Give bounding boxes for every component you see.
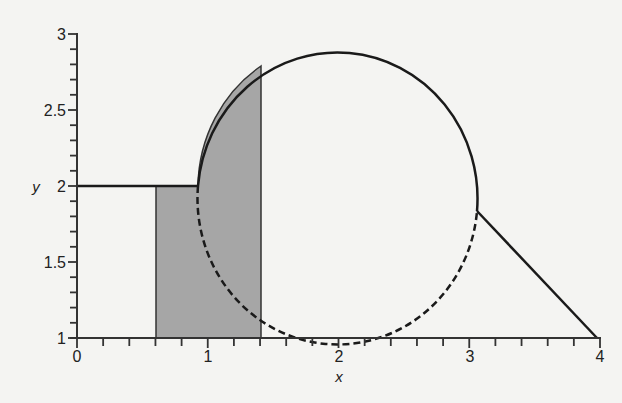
y-tick-label-2-5: 2.5 (44, 102, 66, 119)
y-tick-label-1-5: 1.5 (44, 254, 66, 271)
y-tick-label-2: 2 (57, 178, 66, 195)
x-tick-label-0: 0 (73, 348, 82, 365)
shaded-region (156, 66, 261, 338)
x-axis-ticks (77, 338, 600, 348)
x-tick-label-1: 1 (204, 348, 213, 365)
x-tick-label-2: 2 (335, 348, 344, 365)
x-tick-label-4: 4 (596, 348, 605, 365)
right-diagonal-line (477, 211, 597, 338)
y-tick-label-3: 3 (57, 26, 66, 43)
x-tick-label-3: 3 (466, 348, 475, 365)
y-axis-ticks (68, 34, 77, 338)
plot-canvas: 0 1 2 3 4 1 1.5 2 2.5 3 x y (0, 0, 622, 403)
y-tick-label-1: 1 (57, 330, 66, 347)
y-axis-label: y (31, 178, 41, 195)
x-axis-label: x (334, 368, 343, 385)
